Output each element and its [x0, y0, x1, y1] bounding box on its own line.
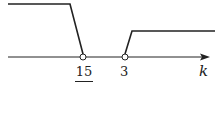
number-line-diagram [0, 0, 220, 121]
open-point-15-7 [80, 54, 86, 60]
region-right [125, 31, 215, 54]
point-label-15-7: 15 [74, 64, 94, 84]
open-point-3 [122, 54, 128, 60]
region-left [8, 4, 83, 54]
axis-label-k: k [199, 64, 208, 79]
fraction-bar [75, 81, 93, 82]
fraction-numerator: 15 [74, 64, 94, 79]
point-label-3: 3 [120, 65, 128, 78]
